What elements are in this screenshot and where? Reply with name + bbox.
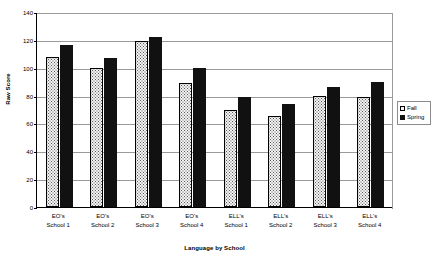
x-tick-label-line: ELL's: [340, 212, 400, 221]
bar-fall-2: [90, 68, 103, 207]
y-tick-label: 100: [23, 66, 33, 72]
bar-fall-8: [357, 97, 370, 207]
legend-label: Fall: [407, 105, 417, 112]
bar-spring-3: [149, 37, 162, 207]
bar-fall-5: [224, 110, 237, 208]
bar-fall-1: [46, 57, 59, 207]
bar-spring-1: [60, 45, 73, 207]
bar-spring-5: [238, 97, 251, 207]
legend-swatch-icon: [400, 106, 405, 111]
bar-spring-2: [104, 58, 117, 207]
legend-label: Spring: [407, 114, 424, 121]
chart-legend: FallSpring: [397, 101, 431, 125]
bar-chart: Raw Score 020406080100120140 EO'sSchool …: [0, 0, 437, 265]
y-tick-label: 140: [23, 10, 33, 16]
y-tick-label: 40: [26, 149, 33, 155]
bar-fall-6: [268, 116, 281, 207]
legend-item-fall[interactable]: Fall: [400, 104, 428, 113]
legend-item-spring[interactable]: Spring: [400, 113, 428, 122]
y-tick-label: 60: [26, 121, 33, 127]
bar-spring-8: [371, 82, 384, 207]
y-tick-label: 20: [26, 177, 33, 183]
bar-fall-3: [135, 41, 148, 207]
bar-spring-4: [193, 68, 206, 207]
bar-spring-6: [282, 104, 295, 207]
y-tick-label: 0: [30, 205, 33, 211]
bar-fall-4: [179, 83, 192, 207]
bar-spring-7: [327, 87, 340, 207]
y-axis-title: Raw Score: [5, 59, 11, 119]
x-tick-label: ELL'sSchool 4: [340, 212, 400, 230]
y-tick-label: 120: [23, 38, 33, 44]
y-tick-label: 80: [26, 94, 33, 100]
x-axis-title: Language by School: [36, 245, 393, 251]
y-tick-mark: [34, 208, 37, 209]
legend-swatch-icon: [400, 115, 405, 120]
x-tick-label-line: School 4: [340, 221, 400, 230]
plot-area: 020406080100120140: [36, 13, 392, 208]
bar-fall-7: [313, 96, 326, 207]
bars-layer: [37, 13, 392, 207]
